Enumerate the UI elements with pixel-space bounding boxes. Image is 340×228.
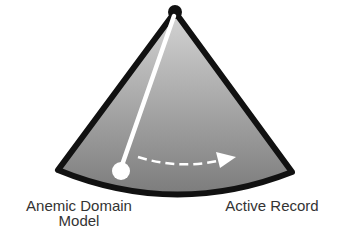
label-active-record: Active Record xyxy=(212,198,332,213)
label-left-line2: Model xyxy=(10,213,148,228)
pendulum-diagram: Anemic Domain Model Active Record xyxy=(0,0,340,228)
pendulum-bob xyxy=(112,162,130,180)
swing-sector xyxy=(58,12,292,195)
label-anemic-domain-model: Anemic Domain Model xyxy=(10,198,148,228)
label-left-line1: Anemic Domain xyxy=(10,198,148,213)
diagram-canvas xyxy=(0,0,340,228)
